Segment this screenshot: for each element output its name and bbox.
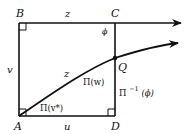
- label-side-ad: u: [64, 121, 70, 132]
- label-b: B: [15, 7, 24, 20]
- label-curve-aq: z: [63, 68, 70, 79]
- label-angle-c: ϕ: [102, 27, 108, 36]
- point-q-dot: [113, 56, 118, 61]
- label-side-ab: v: [7, 64, 13, 75]
- label-angle-q: Π(w): [83, 77, 104, 87]
- right-angle-d-icon: [108, 109, 115, 116]
- lambert-quadrilateral-diagram: B C A D Q z v u z ϕ Π(w) Π(v*) Π −1 (ϕ): [0, 0, 191, 134]
- label-q: Q: [118, 61, 127, 74]
- label-c: C: [111, 7, 120, 20]
- label-a: A: [13, 120, 22, 133]
- label-angle-a: Π(v*): [40, 103, 63, 113]
- right-angle-b-icon: [19, 23, 26, 30]
- label-inverse-pi: Π −1 (ϕ): [119, 83, 154, 98]
- label-side-bc: z: [64, 8, 71, 19]
- label-d: D: [110, 120, 120, 133]
